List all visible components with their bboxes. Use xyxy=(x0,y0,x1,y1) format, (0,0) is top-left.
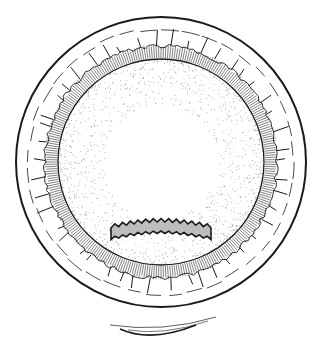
stipple-shading xyxy=(58,59,265,265)
inner-circle xyxy=(58,59,264,265)
cross-section-drawing xyxy=(0,0,323,356)
lens-profile xyxy=(110,317,216,335)
jagged-blob xyxy=(111,219,211,240)
dashed-middle-band xyxy=(27,30,294,296)
spiky-projections xyxy=(31,29,289,293)
